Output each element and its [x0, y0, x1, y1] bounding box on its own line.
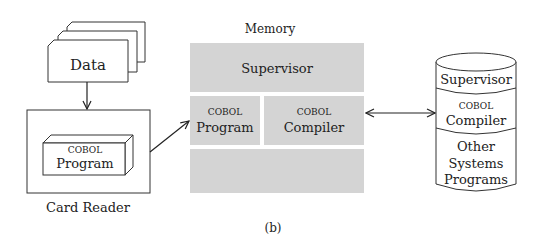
diagram-canvas: Data COBOL Program Card Reader Memory Su… — [0, 0, 546, 245]
memory-title: Memory — [245, 22, 296, 36]
reader-program-line1: COBOL — [68, 145, 102, 155]
memory-compiler-line2: Compiler — [284, 120, 345, 135]
card-reader: COBOL Program Card Reader — [27, 110, 150, 215]
memory-program-line2: Program — [196, 120, 253, 135]
figure-label: (b) — [264, 221, 281, 235]
memory-block: Memory Supervisor COBOL Program COBOL Co… — [190, 22, 364, 193]
arrow-reader-to-memory — [150, 121, 189, 152]
disk-supervisor-label: Supervisor — [440, 72, 513, 87]
disk-other-line1: Other — [457, 139, 496, 154]
disk-other-line3: Programs — [444, 172, 508, 187]
disk-compiler-line2: Compiler — [446, 113, 507, 128]
memory-program-line1: COBOL — [208, 107, 242, 117]
memory-supervisor-label: Supervisor — [241, 61, 314, 76]
card-reader-program-box: COBOL Program — [43, 135, 133, 175]
memory-compiler-line1: COBOL — [297, 107, 331, 117]
data-card-stack: Data — [48, 22, 145, 82]
reader-program-line2: Program — [56, 156, 113, 171]
disk-cylinder: Supervisor COBOL Compiler Other Systems … — [436, 53, 516, 191]
disk-other-line2: Systems — [449, 156, 504, 171]
disk-compiler-line1: COBOL — [459, 101, 493, 111]
data-label: Data — [70, 56, 106, 74]
card-reader-label: Card Reader — [46, 200, 131, 215]
memory-free-region — [190, 149, 364, 193]
